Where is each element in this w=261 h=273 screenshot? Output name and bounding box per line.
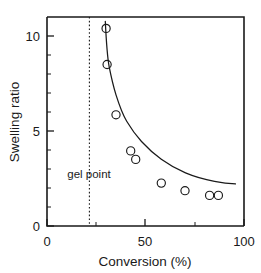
gel-point-label: gel point bbox=[67, 168, 111, 180]
y-tick-label-5: 5 bbox=[33, 124, 40, 139]
data-point bbox=[157, 179, 165, 187]
x-axis-title: Conversion (%) bbox=[98, 254, 191, 269]
swelling-ratio-chart: 0 5 10 0 50 100 Conversion (%) Swelling … bbox=[0, 0, 261, 273]
chart-figure: 0 5 10 0 50 100 Conversion (%) Swelling … bbox=[0, 0, 261, 273]
x-tick-label-50: 50 bbox=[138, 234, 152, 249]
data-point bbox=[127, 147, 135, 155]
data-point bbox=[103, 60, 111, 68]
y-tick-label-10: 10 bbox=[26, 29, 40, 44]
y-axis-title: Swelling ratio bbox=[7, 82, 22, 162]
data-point bbox=[112, 111, 120, 119]
y-tick-label-0: 0 bbox=[33, 219, 40, 234]
x-tick-label-100: 100 bbox=[233, 234, 255, 249]
data-point bbox=[181, 187, 189, 195]
x-tick-label-0: 0 bbox=[43, 234, 50, 249]
data-point bbox=[102, 24, 110, 32]
data-point bbox=[132, 155, 140, 163]
data-point bbox=[206, 191, 214, 199]
data-point bbox=[214, 191, 222, 199]
